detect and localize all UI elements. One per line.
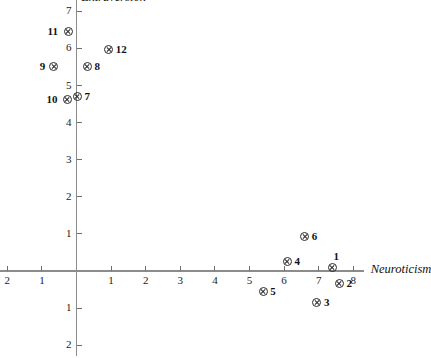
data-point-marker: [104, 45, 113, 54]
y-axis-title: Extraversion: [82, 0, 147, 4]
data-point-label: 7: [85, 91, 91, 102]
data-point-marker: [259, 287, 268, 296]
x-axis-tick: [7, 266, 8, 271]
data-point-label: 11: [48, 26, 58, 37]
y-axis-tick: [77, 11, 82, 12]
data-point-label: 4: [295, 256, 301, 267]
x-axis-tick-label: 7: [309, 275, 329, 286]
data-point-marker: [63, 95, 72, 104]
y-axis-tick: [77, 308, 82, 309]
x-axis-tick: [284, 266, 285, 271]
y-axis-tick-label: 5: [54, 80, 72, 91]
data-point-marker: [49, 62, 58, 71]
x-axis-tick-label: 4: [205, 275, 225, 286]
x-axis-tick-label: 2: [0, 275, 17, 286]
y-axis-tick-label: 3: [54, 154, 72, 165]
x-axis-tick-label: 3: [170, 275, 190, 286]
x-axis-line: [0, 270, 364, 272]
data-point-label: 9: [40, 61, 46, 72]
y-axis-line: [76, 0, 78, 356]
data-point-label: 3: [324, 297, 330, 308]
data-point-label: 6: [312, 231, 318, 242]
y-axis-tick-label: 7: [54, 5, 72, 16]
x-axis-tick: [180, 266, 181, 271]
x-axis-tick: [145, 266, 146, 271]
y-axis-tick: [77, 85, 82, 86]
x-axis-tick-label: 6: [274, 275, 294, 286]
x-axis-tick: [249, 266, 250, 271]
y-axis-tick: [77, 159, 82, 160]
x-axis-tick-label: 5: [240, 275, 260, 286]
data-point-label: 1: [334, 251, 340, 262]
data-point-marker: [283, 257, 292, 266]
y-axis-tick-label: 1: [54, 302, 72, 313]
y-axis-tick: [77, 48, 82, 49]
y-axis-tick-label: 4: [54, 117, 72, 128]
data-point-label: 5: [270, 286, 276, 297]
x-axis-tick: [318, 266, 319, 271]
data-point-marker: [328, 263, 337, 272]
x-axis-tick: [41, 266, 42, 271]
x-axis-tick-label: 1: [32, 275, 52, 286]
data-point-label: 10: [47, 94, 58, 105]
data-point-label: 2: [346, 278, 352, 289]
y-axis-tick-label: 6: [54, 42, 72, 53]
data-point-marker: [300, 232, 309, 241]
data-point-marker: [73, 92, 82, 101]
x-axis-tick: [353, 266, 354, 271]
y-axis-tick: [77, 122, 82, 123]
x-axis-title: Neuroticism: [371, 263, 431, 276]
y-axis-tick-label: 2: [54, 191, 72, 202]
x-axis-tick: [111, 266, 112, 271]
y-axis-tick-label: 1: [54, 228, 72, 239]
data-point-label: 8: [95, 61, 101, 72]
y-axis-tick-label: 2: [54, 339, 72, 350]
y-axis-tick: [77, 196, 82, 197]
y-axis-tick: [77, 233, 82, 234]
x-axis-tick: [214, 266, 215, 271]
x-axis-tick-label: 2: [136, 275, 156, 286]
y-axis-tick: [77, 345, 82, 346]
x-axis-tick-label: 1: [101, 275, 121, 286]
data-point-marker: [83, 62, 92, 71]
data-point-marker: [64, 27, 73, 36]
data-point-marker: [335, 279, 344, 288]
data-point-marker: [312, 298, 321, 307]
data-point-label: 12: [116, 44, 127, 55]
